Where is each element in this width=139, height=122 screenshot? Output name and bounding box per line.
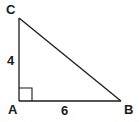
side-bc (19, 18, 121, 101)
triangle-diagram: C A B 4 6 (0, 0, 139, 122)
vertex-label-c: C (6, 2, 16, 17)
right-angle-marker (19, 88, 32, 101)
side-label-ac: 4 (7, 53, 15, 68)
vertex-label-a: A (8, 102, 18, 117)
side-label-ab: 6 (61, 103, 68, 118)
vertex-label-b: B (124, 102, 133, 117)
